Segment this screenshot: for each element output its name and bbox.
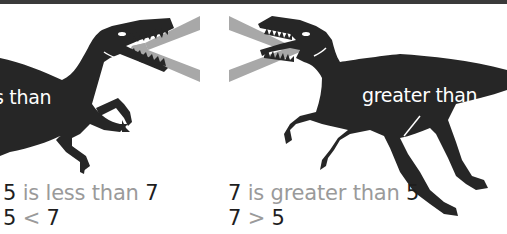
comparison-words: is greater than (241, 181, 406, 205)
greater-than-operator: > (241, 206, 271, 230)
greater-than-sentence: 7 is greater than 5 (228, 182, 419, 204)
eye-icon (118, 32, 126, 36)
number-b: 5 (406, 181, 419, 205)
comparison-words: is less than (16, 181, 145, 205)
number-b: 7 (145, 181, 158, 205)
less-than-label: s than (0, 86, 51, 108)
less-than-sentence: 5 is less than 7 (3, 182, 158, 204)
number-a: 7 (228, 206, 241, 230)
greater-than-label: greater than (362, 84, 477, 106)
number-b: 7 (47, 206, 60, 230)
eye-icon (302, 32, 310, 36)
less-than-expression: 5 < 7 (3, 207, 60, 229)
greater-than-expression: 7 > 5 (228, 207, 285, 229)
number-a: 5 (3, 206, 16, 230)
number-a: 5 (3, 181, 16, 205)
number-b: 5 (272, 206, 285, 230)
number-a: 7 (228, 181, 241, 205)
less-than-operator: < (16, 206, 46, 230)
